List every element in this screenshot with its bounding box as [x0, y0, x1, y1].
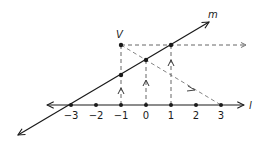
projection-diagram: l m −3 −2 −1 0 1 2 3 V: [0, 0, 268, 157]
tick-label: 0: [143, 110, 149, 121]
point-m-at-1: [169, 43, 173, 47]
tick-label: −3: [64, 110, 79, 121]
tick-label: −2: [89, 110, 104, 121]
line-m-label: m: [208, 9, 218, 20]
point-m-at-0: [144, 58, 148, 62]
point-v-label: V: [116, 29, 124, 40]
point-v: [119, 43, 123, 47]
tick-label: 2: [193, 110, 199, 121]
point-m-at-minus1: [119, 73, 123, 77]
tick-label: −1: [114, 110, 129, 121]
tick-label: 3: [218, 110, 224, 121]
line-l-label: l: [249, 100, 252, 111]
tick-label: 1: [168, 110, 174, 121]
